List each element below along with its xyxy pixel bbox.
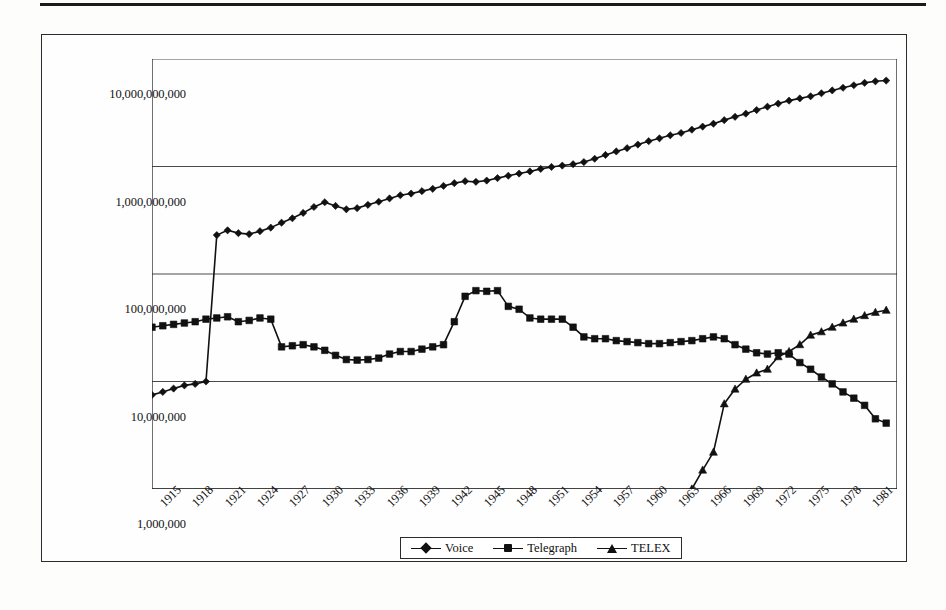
data-point [570,324,577,331]
data-point [386,195,393,202]
legend-item-telex[interactable]: TELEX [597,542,671,555]
data-point [170,321,177,328]
data-point [743,346,750,353]
data-point [516,170,523,177]
data-point [785,97,792,104]
data-point [840,389,847,396]
data-point [311,344,318,351]
legend-item-telegraph[interactable]: Telegraph [493,542,577,555]
data-point [354,357,361,364]
data-point [797,359,804,366]
legend-marker-square-icon [504,544,512,552]
data-point [818,374,825,381]
data-point [883,420,890,427]
legend-key-square-icon [493,542,523,554]
data-point [235,318,242,325]
data-point [429,344,436,351]
data-point [829,381,836,388]
data-point [321,347,328,354]
data-point [591,155,598,162]
data-point [526,168,533,175]
data-point [613,148,620,155]
data-point [213,232,220,239]
data-point [677,129,684,136]
data-point [559,162,566,169]
data-point [473,287,480,294]
legend-marker-diamond-icon [420,542,431,553]
data-point [289,342,296,349]
data-point [462,178,469,185]
data-point [667,339,674,346]
data-point [537,316,544,323]
data-point [152,324,155,331]
data-point [278,344,285,351]
data-point [807,93,814,100]
data-point [851,395,858,402]
data-point [343,206,350,213]
data-point [397,192,404,199]
data-point [861,79,868,86]
data-point [764,351,771,358]
legend-label: TELEX [631,542,671,555]
data-point [246,317,253,324]
legend-item-voice[interactable]: Voice [411,542,473,555]
data-point [440,182,447,189]
data-point [440,341,447,348]
data-point [203,316,210,323]
series-telex [688,306,890,489]
data-point [710,120,717,127]
data-point [602,335,609,342]
data-point [408,190,415,197]
data-point [267,224,274,231]
data-point [300,209,307,216]
legend-label: Voice [445,542,473,555]
data-point [418,188,425,195]
data-point [839,84,846,91]
page-top-rule [40,3,926,6]
y-axis-tick-label: 1,000,000 [137,517,186,532]
data-point [635,339,642,346]
legend-key-diamond-icon [411,542,441,554]
data-point [581,334,588,341]
data-point [731,113,738,120]
data-point [580,158,587,165]
data-point [861,402,868,409]
data-point [753,349,760,356]
data-point [850,82,857,89]
data-point [375,198,382,205]
data-point [548,316,555,323]
data-point [591,335,598,342]
data-point [602,151,609,158]
data-point [559,316,566,323]
data-point [213,315,220,322]
legend-key-triangle-icon [597,542,627,554]
data-point [709,448,717,455]
chart-page: 10,000,000,0001,000,000,000100,000,00010… [0,0,946,610]
data-point [343,356,350,363]
data-point [332,352,339,359]
data-point [181,382,188,389]
data-point [505,303,512,310]
data-point [645,138,652,145]
data-point [548,163,555,170]
data-point [365,356,372,363]
data-point [408,348,415,355]
data-point [807,366,814,373]
data-point [775,100,782,107]
data-point [354,205,361,212]
data-point [278,219,285,226]
data-point [883,77,890,84]
legend-marker-triangle-icon [607,544,617,553]
data-point [310,203,317,210]
data-point [732,341,739,348]
data-point [159,388,166,395]
data-point [289,215,296,222]
data-point [667,132,674,139]
series-line-voice [152,81,886,395]
data-point [689,337,696,344]
data-point [721,335,728,342]
data-point [699,335,706,342]
data-point [332,202,339,209]
data-point [645,340,652,347]
data-point [483,177,490,184]
